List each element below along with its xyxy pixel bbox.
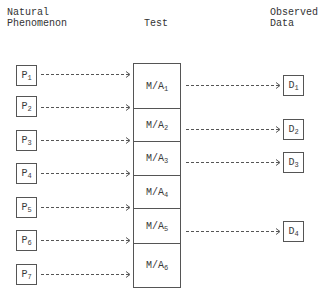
test-ma4-subscript: 4 [164, 191, 168, 199]
test-ma5-subscript: 5 [164, 225, 168, 233]
test-ma2-label: M/A2 [146, 120, 168, 132]
test-cell-ma6: M/A6 [134, 244, 180, 288]
phenomenon-p1-subscript: 1 [27, 74, 31, 82]
arrow-p2-to-test [41, 105, 130, 111]
phenomenon-box-p7: P7 [16, 264, 37, 285]
phenomenon-p4-label: P4 [21, 168, 31, 180]
phenomenon-p6-subscript: 6 [27, 239, 31, 247]
phenomenon-box-p5: P5 [16, 197, 37, 218]
phenomenon-p3-label: P3 [21, 135, 31, 147]
arrow-p1-to-test [41, 72, 130, 78]
phenomenon-p1-label: P1 [21, 70, 31, 82]
test-ma4-label: M/A4 [146, 187, 168, 199]
test-divider [134, 108, 180, 109]
test-ma6-subscript: 6 [164, 264, 168, 272]
arrow-test-to-d1 [186, 83, 280, 89]
arrow-p6-to-test [41, 238, 130, 244]
test-cell-ma4: M/A4 [134, 176, 180, 209]
test-ma3-label: M/A3 [146, 153, 168, 165]
observed-d4-label: D4 [288, 226, 298, 238]
phenomenon-box-p6: P6 [16, 230, 37, 251]
observed-d1-subscript: 1 [294, 84, 298, 92]
phenomenon-p2-label: P2 [21, 101, 31, 113]
test-divider [134, 208, 180, 209]
phenomenon-p2-subscript: 2 [27, 105, 31, 113]
test-cell-ma3: M/A3 [134, 142, 180, 176]
arrow-p4-to-test [41, 171, 130, 177]
observed-box-d3: D3 [283, 152, 304, 173]
arrow-p5-to-test [41, 205, 130, 211]
phenomenon-p6-label: P6 [21, 235, 31, 247]
observed-d3-subscript: 3 [294, 161, 298, 169]
test-ma2-subscript: 2 [164, 124, 168, 132]
observed-box-d1: D1 [283, 75, 304, 96]
arrow-test-to-d2 [186, 127, 280, 133]
phenomenon-box-p1: P1 [16, 65, 37, 86]
arrow-test-to-d3 [186, 160, 280, 166]
arrow-test-to-d4 [186, 229, 280, 235]
observed-d4-subscript: 4 [294, 230, 298, 238]
test-ma1-subscript: 1 [164, 85, 168, 93]
test-cell-ma2: M/A2 [134, 109, 180, 142]
observed-d2-label: D2 [288, 124, 298, 136]
phenomenon-box-p4: P4 [16, 163, 37, 184]
test-ma6-label: M/A6 [146, 260, 168, 272]
observed-box-d2: D2 [283, 119, 304, 140]
test-ma1-label: M/A1 [146, 81, 168, 93]
phenomenon-p7-subscript: 7 [27, 273, 31, 281]
phenomenon-p3-subscript: 3 [27, 139, 31, 147]
phenomenon-box-p3: P3 [16, 130, 37, 151]
phenomenon-p5-subscript: 5 [27, 206, 31, 214]
observed-d2-subscript: 2 [294, 128, 298, 136]
phenomenon-p7-label: P7 [21, 269, 31, 281]
arrow-p7-to-test [41, 272, 130, 278]
phenomenon-p5-label: P5 [21, 202, 31, 214]
test-cell-ma5: M/A5 [134, 209, 180, 244]
test-column: M/A1M/A2M/A3M/A4M/A5M/A6 [133, 63, 181, 288]
test-divider [134, 141, 180, 142]
phenomenon-box-p2: P2 [16, 96, 37, 117]
test-ma3-subscript: 3 [164, 157, 168, 165]
phenomenon-p4-subscript: 4 [27, 172, 31, 180]
observed-d3-label: D3 [288, 157, 298, 169]
test-ma5-label: M/A5 [146, 221, 168, 233]
test-divider [134, 175, 180, 176]
arrow-p3-to-test [41, 138, 130, 144]
observed-d1-label: D1 [288, 80, 298, 92]
observed-box-d4: D4 [283, 221, 304, 242]
test-divider [134, 243, 180, 244]
test-cell-ma1: M/A1 [134, 64, 180, 109]
